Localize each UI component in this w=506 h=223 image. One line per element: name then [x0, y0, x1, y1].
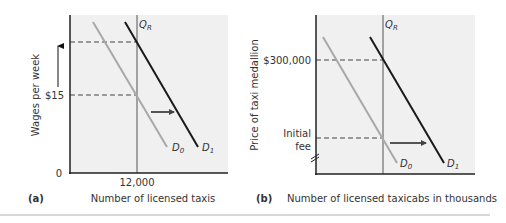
- y-tick-300000: $300,000: [263, 55, 311, 66]
- y-tick-15: $15: [45, 90, 64, 101]
- panel-label-b: (b): [256, 193, 272, 204]
- y-tick-initial: Initial: [283, 128, 311, 139]
- panel-b: QR D0 D1 $300,000 Initial fee Price of t…: [249, 15, 497, 204]
- y-axis-label-a: Wages per week: [30, 54, 41, 137]
- origin-label-a: 0: [56, 168, 62, 179]
- y-tick-fee: fee: [295, 141, 311, 152]
- y-axis-label-b: Price of taxi medallion: [249, 39, 260, 150]
- panel-label-a: (a): [28, 193, 44, 204]
- plot-area-b: [316, 15, 475, 174]
- diagram-canvas: QR D0 D1 $15 0 12,000 Wages per week (a)…: [0, 0, 506, 223]
- x-axis-label-a: Number of licensed taxis: [91, 193, 216, 204]
- panel-a: QR D0 D1 $15 0 12,000 Wages per week (a)…: [28, 15, 228, 204]
- x-tick-12000: 12,000: [120, 177, 155, 188]
- x-axis-label-b: Number of licensed taxicabs in thousands: [287, 193, 497, 204]
